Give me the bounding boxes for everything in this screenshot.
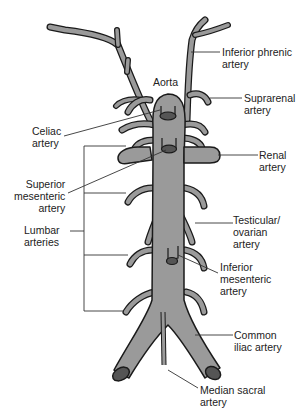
label-common-iliac-artery: Common iliac artery (234, 329, 282, 353)
label-celiac-artery: Celiac artery (32, 125, 61, 149)
label-aorta: Aorta (153, 76, 178, 88)
label-inferior-phrenic-artery: Inferior phrenic artery (222, 46, 292, 70)
label-suprarenal-artery: Suprarenal artery (244, 92, 295, 116)
label-testicular-ovarian-artery: Testicular/ ovarian artery (233, 214, 280, 250)
label-superior-mesenteric-artery: Superior mesenteric artery (14, 178, 65, 214)
celiac-artery-stump (160, 106, 176, 120)
label-lumbar-arteries: Lumbar arteries (24, 224, 60, 248)
label-renal-artery: Renal artery (259, 149, 286, 173)
label-median-sacral-artery: Median sacral artery (200, 384, 265, 408)
label-inferior-mesenteric-artery: Inferior mesenteric artery (220, 261, 271, 297)
inferior-mesenteric-stump (167, 246, 179, 265)
